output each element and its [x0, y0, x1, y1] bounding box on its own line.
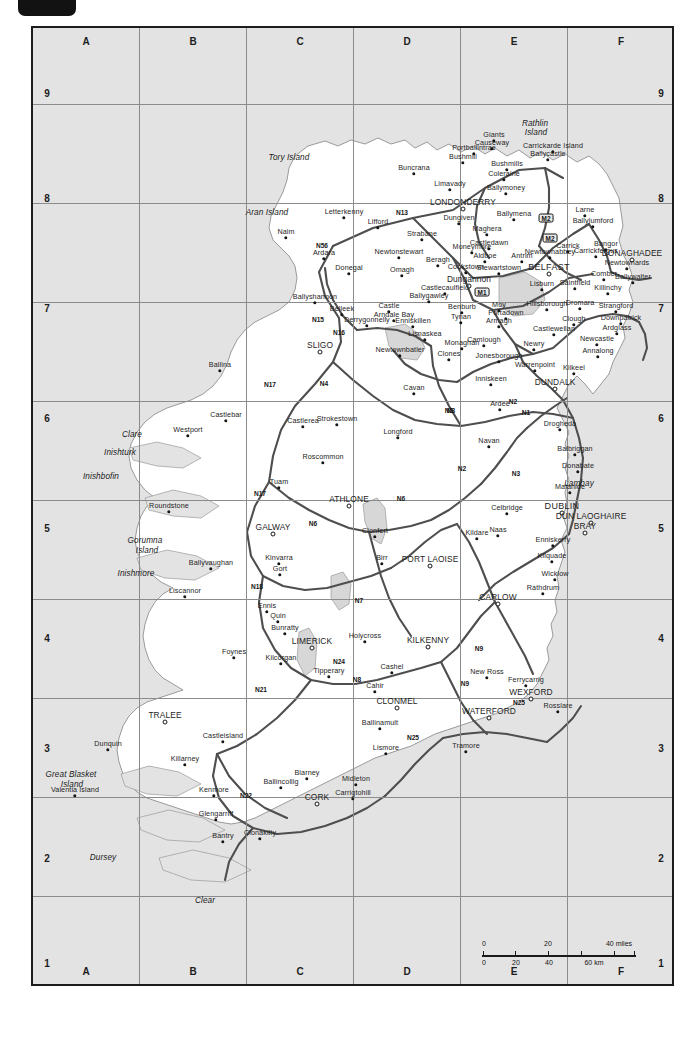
place-label[interactable]: Maghera [472, 224, 501, 233]
map-marker[interactable] [529, 697, 534, 702]
place-label[interactable]: Newtownbatler [376, 345, 425, 354]
place-label[interactable]: Wicklow [541, 569, 568, 578]
place-label[interactable]: Gorumna [128, 536, 163, 545]
place-label[interactable]: Aran Island [246, 208, 289, 217]
place-label[interactable]: KILKENNY [407, 635, 449, 645]
place-label[interactable]: Strabane [407, 229, 437, 238]
place-label[interactable]: Castlebar [210, 410, 242, 419]
place-label[interactable]: Blarney [294, 768, 319, 777]
map-marker[interactable] [395, 706, 400, 711]
place-label[interactable]: LONDONDERRY [430, 197, 496, 207]
place-label[interactable]: Castle [379, 301, 400, 310]
map-marker[interactable] [310, 646, 315, 651]
place-label[interactable]: Belleek [330, 304, 354, 313]
map-canvas[interactable]: A B C D E F A B C D E F 9 8 7 6 5 4 3 2 … [33, 28, 672, 984]
place-label[interactable]: Armagh [486, 316, 512, 325]
place-label[interactable]: Naim [277, 227, 294, 236]
place-label[interactable]: Stewartstown [477, 263, 521, 272]
place-label[interactable]: Strokestown [317, 414, 358, 423]
place-label[interactable]: Quin [270, 611, 286, 620]
place-label[interactable]: Clare [122, 430, 142, 439]
map-marker[interactable] [315, 802, 320, 807]
place-label[interactable]: Clonfert [362, 526, 388, 535]
place-label[interactable]: CLONMEL [376, 696, 417, 706]
place-label[interactable]: Donegal [335, 263, 362, 272]
place-label[interactable]: Cahir [366, 681, 384, 690]
map-marker[interactable] [318, 350, 323, 355]
map-marker[interactable] [271, 532, 276, 537]
place-label[interactable]: BELFAST [528, 262, 570, 272]
place-label[interactable]: Donabate [562, 461, 594, 470]
place-label[interactable]: Birr [376, 553, 388, 562]
place-label[interactable]: Cavan [403, 383, 424, 392]
place-label[interactable]: Longford [383, 427, 412, 436]
place-label[interactable]: Tynan [451, 312, 471, 321]
place-label[interactable]: Bushmill [449, 152, 477, 161]
place-label[interactable]: Ballyvaughan [189, 558, 233, 567]
place-label[interactable]: Saintfield [560, 278, 591, 287]
place-label[interactable]: Island [525, 128, 547, 137]
place-label[interactable]: Lisburn [530, 279, 554, 288]
place-label[interactable]: Rathlin [522, 119, 548, 128]
place-label[interactable]: Ballywalter [615, 272, 651, 281]
place-label[interactable]: Clonakilty [244, 828, 276, 837]
place-label[interactable]: Monaghan [445, 338, 480, 347]
place-label[interactable]: Warrenpoint [515, 360, 555, 369]
place-label[interactable]: ATHLONE [329, 494, 369, 504]
place-label[interactable]: DUNDALK [535, 377, 576, 387]
place-label[interactable]: Castledawn [470, 238, 509, 247]
place-label[interactable]: CORK [305, 792, 330, 802]
map-marker[interactable] [461, 207, 466, 212]
place-label[interactable]: Ferrycarrig [508, 675, 544, 684]
place-label[interactable]: Derrygonnelly [344, 315, 390, 324]
place-label[interactable]: Balbriggan [557, 444, 592, 453]
place-label[interactable]: Ballylumford [573, 216, 614, 225]
place-label[interactable]: Roundstone [149, 501, 189, 510]
place-label[interactable]: Ennis [258, 601, 276, 610]
place-label[interactable]: Coleraine [488, 169, 520, 178]
place-label[interactable]: Ballinamult [362, 718, 398, 727]
place-label[interactable]: Ballina [209, 360, 231, 369]
place-label[interactable]: Navan [478, 436, 499, 445]
place-label[interactable]: Lambay [564, 479, 594, 488]
place-label[interactable]: Bushmills [491, 159, 523, 168]
place-label[interactable]: New Ross [470, 667, 504, 676]
place-label[interactable]: Annalong [582, 346, 613, 355]
place-label[interactable]: Ballyshannon [293, 292, 337, 301]
place-label[interactable]: Castlerea [287, 416, 319, 425]
place-label[interactable]: BRAY [574, 521, 597, 531]
place-label[interactable]: Downpatrick [601, 313, 642, 322]
place-label[interactable]: DUN LAOGHAIRE [556, 511, 627, 521]
place-label[interactable]: Holycross [349, 631, 381, 640]
place-label[interactable]: Clough [562, 314, 585, 323]
place-label[interactable]: DUBLIN [545, 501, 580, 511]
place-label[interactable]: Comber [591, 269, 617, 278]
place-label[interactable]: Foynes [222, 647, 246, 656]
map-marker[interactable] [347, 504, 352, 509]
place-label[interactable]: Ballygawley [409, 291, 448, 300]
place-label[interactable]: Killinchy [594, 283, 621, 292]
place-label[interactable]: Bantry [212, 831, 233, 840]
place-label[interactable]: Midleton [342, 774, 370, 783]
place-label[interactable]: Newtownards [605, 258, 650, 267]
place-label[interactable]: Kenmore [199, 785, 229, 794]
place-label[interactable]: Kilcorgan [266, 653, 297, 662]
place-label[interactable]: LIMERICK [292, 636, 332, 646]
place-label[interactable]: Lifford [368, 217, 389, 226]
place-label[interactable]: Tramore [452, 741, 480, 750]
place-label[interactable]: Buncrana [398, 163, 430, 172]
place-label[interactable]: Killarney [171, 754, 199, 763]
place-label[interactable]: DONAGHADEE [602, 248, 663, 258]
place-label[interactable]: Kildare [465, 528, 488, 537]
place-label[interactable]: Valentia Island [51, 785, 99, 794]
map-marker[interactable] [426, 645, 431, 650]
place-label[interactable]: Tuam [270, 477, 289, 486]
place-label[interactable]: Westport [173, 425, 202, 434]
map-marker[interactable] [496, 602, 501, 607]
place-label[interactable]: Strangford [599, 301, 634, 310]
place-label[interactable]: Newry [524, 339, 545, 348]
place-label[interactable]: Celbridge [491, 503, 523, 512]
place-label[interactable]: Ardglass [603, 323, 632, 332]
place-label[interactable]: Drogheda [544, 419, 576, 428]
place-label[interactable]: Beragh [426, 255, 450, 264]
